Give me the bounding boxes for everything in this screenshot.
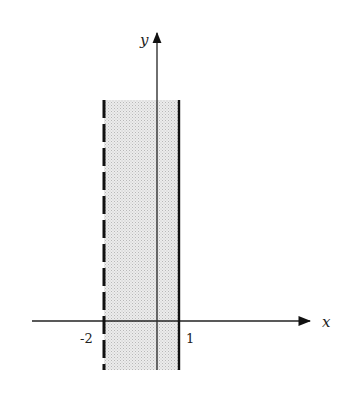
coordinate-diagram: y x -2 1: [0, 0, 355, 413]
tick-label-neg2: -2: [80, 331, 93, 346]
shaded-region: [104, 100, 179, 370]
x-axis-label: x: [322, 313, 331, 331]
tick-label-1: 1: [186, 331, 194, 346]
y-axis-label: y: [139, 31, 149, 49]
